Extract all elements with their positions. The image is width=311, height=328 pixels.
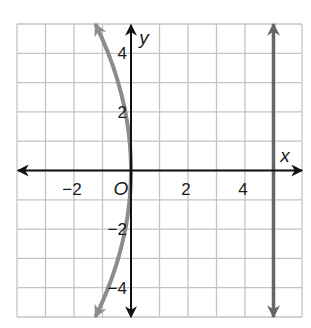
- y-tick-label: 4: [118, 44, 127, 63]
- x-tick-label: 4: [238, 180, 247, 199]
- y-tick-label: 2: [118, 103, 127, 122]
- coordinate-plane: −22442−2−4Oxy: [0, 0, 311, 328]
- y-tick-label: −2: [108, 220, 127, 239]
- tick-labels: −22442−2−4Oxy: [62, 27, 291, 298]
- x-tick-label: 2: [181, 180, 190, 199]
- x-tick-label: −2: [62, 180, 81, 199]
- origin-label: O: [114, 178, 129, 199]
- x-axis-name: x: [279, 145, 291, 166]
- y-tick-label: −4: [108, 279, 127, 298]
- y-axis-name: y: [137, 27, 150, 48]
